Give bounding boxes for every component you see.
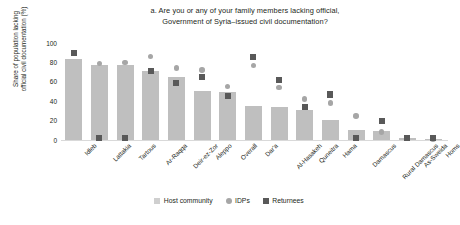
bar-group bbox=[138, 43, 164, 140]
marker-returnees bbox=[302, 104, 308, 110]
marker-idps bbox=[276, 85, 282, 91]
y-tick-20: 20 bbox=[35, 117, 57, 124]
legend-item-host-community: Host community bbox=[154, 197, 212, 204]
legend-item-returnees: Returnees bbox=[263, 197, 304, 204]
bar-group bbox=[61, 43, 87, 140]
marker-idps bbox=[302, 96, 308, 102]
bar-host-community bbox=[117, 65, 134, 140]
y-axis-ticks: 020406080100 bbox=[33, 43, 57, 140]
bar-group bbox=[164, 43, 190, 140]
host-community-swatch-icon bbox=[154, 198, 160, 204]
marker-returnees bbox=[225, 93, 231, 99]
idps-swatch-icon bbox=[226, 198, 232, 204]
y-tick-80: 80 bbox=[35, 59, 57, 66]
legend-label-host-community: Host community bbox=[164, 197, 213, 204]
x-tick-label: Tartous bbox=[137, 142, 157, 162]
marker-returnees bbox=[148, 68, 154, 74]
marker-returnees bbox=[250, 54, 256, 60]
x-tick-label: Damascus bbox=[371, 142, 397, 168]
y-tick-0: 0 bbox=[35, 137, 57, 144]
chart-legend: Host community IDPs Returnees bbox=[0, 197, 458, 204]
bar-host-community bbox=[219, 92, 236, 140]
bar-group bbox=[189, 43, 215, 140]
x-axis-line bbox=[61, 140, 448, 141]
bar-group bbox=[241, 43, 267, 140]
x-tick-label: Ar-Raqqa bbox=[164, 142, 188, 166]
y-tick-100: 100 bbox=[35, 40, 57, 47]
y-tick-40: 40 bbox=[35, 98, 57, 105]
x-tick-label: Dar'a bbox=[264, 142, 280, 158]
bar-group bbox=[215, 43, 241, 140]
x-axis-tick-labels: IdlebLattakiaTartousAr-RaqqaDeir-ez-ZorA… bbox=[61, 142, 446, 188]
bar-group bbox=[318, 43, 344, 140]
bar-host-community bbox=[194, 91, 211, 140]
bar-host-community bbox=[142, 71, 159, 140]
bar-host-community bbox=[322, 120, 339, 140]
bar-group bbox=[292, 43, 318, 140]
marker-idps bbox=[174, 65, 180, 71]
bar-host-community bbox=[91, 65, 108, 140]
marker-returnees bbox=[122, 135, 128, 141]
marker-returnees bbox=[404, 135, 410, 141]
x-tick-label: Idleb bbox=[84, 142, 99, 157]
bar-host-community bbox=[271, 107, 288, 140]
bar-group bbox=[395, 43, 421, 140]
chart-title: a. Are you or any of your family members… bbox=[60, 6, 430, 27]
legend-label-idps: IDPs bbox=[235, 197, 250, 204]
plot-area bbox=[61, 43, 446, 140]
returnees-swatch-icon bbox=[263, 198, 269, 204]
chart-title-line-2: Government of Syria–issued civil documen… bbox=[60, 17, 430, 28]
bar-group bbox=[266, 43, 292, 140]
bar-group bbox=[87, 43, 113, 140]
marker-returnees bbox=[276, 77, 282, 83]
marker-idps bbox=[353, 113, 359, 119]
marker-returnees bbox=[430, 135, 436, 141]
chart-title-line-1: a. Are you or any of your family members… bbox=[60, 6, 430, 17]
x-tick-label: Hama bbox=[341, 142, 358, 159]
bar-host-community bbox=[65, 59, 82, 140]
x-tick-label: Lattakia bbox=[112, 142, 133, 163]
bar-group bbox=[343, 43, 369, 140]
y-axis-label: Share of population lacking official civ… bbox=[12, 0, 34, 102]
marker-returnees bbox=[71, 50, 77, 56]
marker-idps bbox=[251, 63, 257, 69]
bar-group bbox=[369, 43, 395, 140]
legend-item-idps: IDPs bbox=[226, 197, 250, 204]
marker-returnees bbox=[96, 135, 102, 141]
x-tick-label: Overall bbox=[239, 142, 258, 161]
y-tick-60: 60 bbox=[35, 78, 57, 85]
marker-returnees bbox=[327, 91, 333, 97]
marker-idps bbox=[122, 60, 128, 66]
bar-host-community bbox=[296, 110, 313, 140]
marker-returnees bbox=[379, 118, 385, 124]
y-axis-label-line-2: official civil documentation (%) bbox=[20, 0, 28, 102]
marker-returnees bbox=[199, 74, 205, 80]
y-axis-label-line-1: Share of population lacking bbox=[12, 0, 20, 102]
legend-label-returnees: Returnees bbox=[272, 197, 303, 204]
marker-idps bbox=[225, 84, 231, 90]
marker-idps bbox=[148, 54, 154, 60]
marker-returnees bbox=[353, 135, 359, 141]
marker-idps bbox=[199, 67, 205, 73]
bar-group bbox=[420, 43, 446, 140]
marker-idps bbox=[328, 100, 334, 106]
bar-group bbox=[112, 43, 138, 140]
marker-returnees bbox=[173, 80, 179, 86]
bar-host-community bbox=[245, 106, 262, 140]
bar-host-community bbox=[168, 77, 185, 140]
